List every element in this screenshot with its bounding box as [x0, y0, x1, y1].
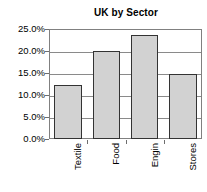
x-axis-tick-label: Engin: [150, 143, 160, 167]
bar: [93, 51, 121, 139]
bar: [54, 85, 82, 139]
x-axis: TextileFoodEnginStores: [0, 143, 153, 192]
bar: [131, 35, 159, 139]
x-axis-tick-label: Stores: [188, 143, 198, 170]
y-axis: 0.0%5.0%10.0%15.0%20.0%25.0%: [0, 29, 45, 139]
x-axis-tick-label-wrap: Textile: [73, 143, 83, 170]
chart-title: UK by Sector: [48, 7, 204, 19]
bar: [169, 74, 197, 139]
x-axis-tick-label-wrap: Stores: [188, 143, 198, 170]
x-axis-tick-mark: [164, 140, 165, 144]
y-axis-tick-label: 10.0%: [0, 90, 45, 100]
y-axis-tick-label: 15.0%: [0, 68, 45, 78]
y-axis-tick-mark: [45, 139, 49, 140]
x-axis-tick-label: Food: [111, 143, 121, 165]
y-axis-tick-label: 20.0%: [0, 46, 45, 56]
x-axis-tick-label-wrap: Food: [111, 143, 121, 165]
x-axis-tick-label: Textile: [73, 143, 83, 170]
y-axis-tick-label: 5.0%: [0, 112, 45, 122]
bars-layer: [49, 29, 202, 139]
bar-chart: UK by Sector 0.0%5.0%10.0%15.0%20.0%25.0…: [0, 0, 207, 192]
x-axis-tick-label-wrap: Engin: [150, 143, 160, 167]
y-axis-tick-label: 25.0%: [0, 24, 45, 34]
